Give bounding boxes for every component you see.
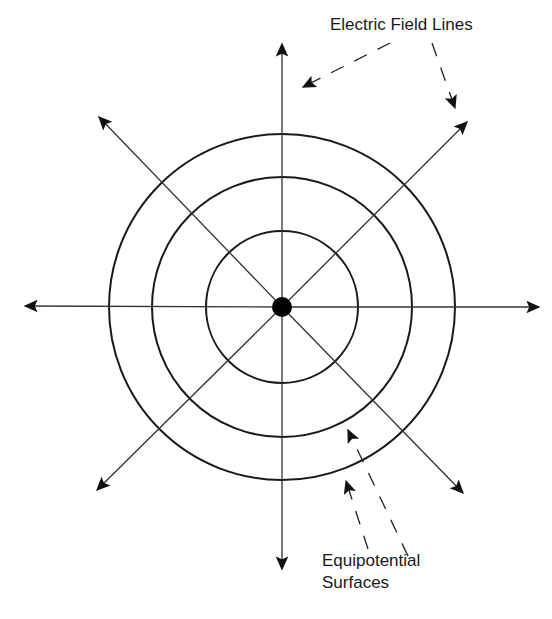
field-line-up-right <box>282 122 467 307</box>
point-charge <box>272 297 292 317</box>
equipotential-label-line2: Surfaces <box>322 572 420 594</box>
field-lines-pointer-2 <box>432 43 455 108</box>
electric-field-lines-label: Electric Field Lines <box>330 14 473 36</box>
field-line-down-right <box>282 307 463 493</box>
equipotential-label-line1: Equipotential <box>322 550 420 572</box>
field-diagram <box>0 0 552 619</box>
field-line-up-left <box>99 117 282 307</box>
field-line-down-left <box>97 307 282 490</box>
equipotential-pointer-1 <box>346 481 368 549</box>
field-lines-pointer-1 <box>303 43 390 87</box>
equipotential-surfaces-label: Equipotential Surfaces <box>322 550 420 594</box>
annotation-pointers <box>303 43 455 556</box>
equipotential-pointer-2 <box>348 430 408 556</box>
field-line-left <box>25 306 282 307</box>
